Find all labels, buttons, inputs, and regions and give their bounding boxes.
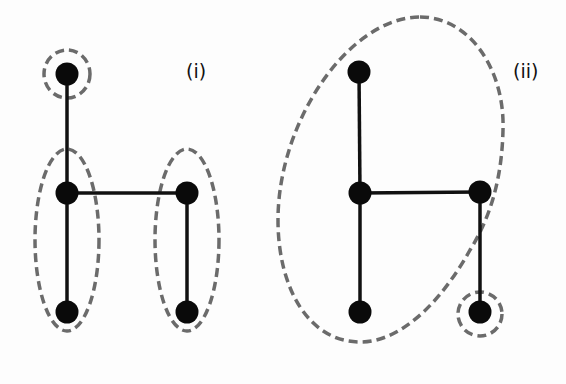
diagram-canvas: (i) (ii): [0, 0, 566, 384]
graph-diagram: [0, 0, 566, 384]
edge-top-mid-left: [359, 72, 360, 193]
panel-i: [35, 50, 219, 331]
node-mid-right: [469, 181, 492, 204]
node-mid-right: [176, 182, 199, 205]
node-top: [348, 61, 371, 84]
panel-ii-edges: [359, 72, 480, 312]
panel-i-label: (i): [186, 62, 206, 81]
node-bottom-left: [349, 301, 372, 324]
node-bottom-left: [56, 301, 79, 324]
node-top: [56, 63, 79, 86]
panel-ii-label: (ii): [513, 62, 538, 81]
edge-mid-left-mid-right: [360, 192, 480, 193]
node-mid-left: [56, 182, 79, 205]
node-bottom-right: [176, 301, 199, 324]
node-bottom-right: [469, 301, 492, 324]
panel-i-edges: [67, 74, 187, 312]
node-mid-left: [349, 182, 372, 205]
panel-ii: [278, 17, 503, 342]
panel-ii-groups: [278, 17, 503, 342]
